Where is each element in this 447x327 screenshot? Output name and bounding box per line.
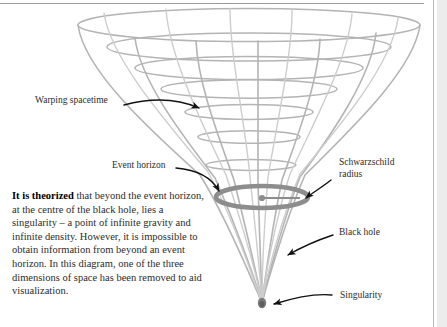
caption-body: that beyond the event horizon, at the ce… xyxy=(12,190,204,296)
caption-paragraph: It is theorized that beyond the event ho… xyxy=(12,189,204,298)
label-schwarzschild-radius: Schwarzschild radius xyxy=(339,157,394,180)
ring-centre-dot xyxy=(259,195,265,201)
caption-lede: It is theorized xyxy=(12,190,74,201)
latitude-ring-3 xyxy=(135,57,363,80)
label-black-hole: Black hole xyxy=(339,227,380,239)
singularity-core xyxy=(260,301,265,307)
latitude-ring-5 xyxy=(185,105,313,120)
event-horizon-ring-group xyxy=(216,186,308,208)
label-warping-spacetime: Warping spacetime xyxy=(35,95,108,107)
label-event-horizon: Event horizon xyxy=(112,160,166,172)
latitude-ring-1 xyxy=(78,9,420,42)
arrow-schwarzschild-radius xyxy=(306,180,331,198)
label-singularity: Singularity xyxy=(340,290,382,302)
column-divider-rule xyxy=(433,0,434,327)
singularity-point-group xyxy=(258,298,266,308)
latitude-ring-6 xyxy=(198,131,300,143)
funnel-latitude-rings xyxy=(78,9,420,171)
arrow-black-hole xyxy=(288,235,333,255)
right-margin-strip xyxy=(437,0,447,327)
meridian-back-4 xyxy=(262,10,292,303)
arrow-singularity xyxy=(274,295,332,304)
figure-page: Warping spacetime Event horizon Schwarzs… xyxy=(0,0,447,327)
